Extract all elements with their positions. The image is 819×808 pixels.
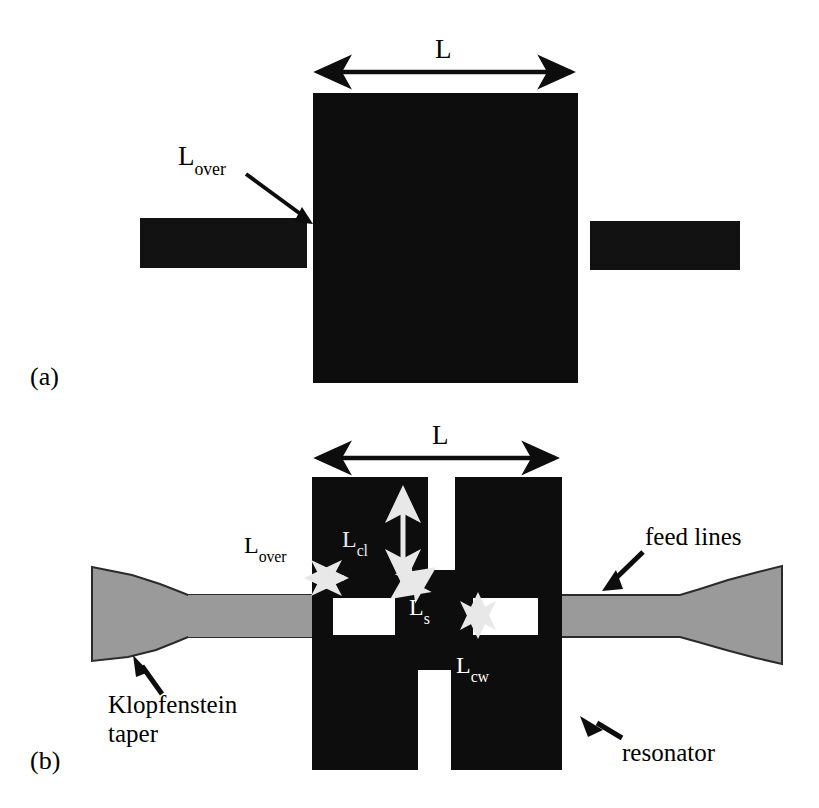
panel-b-annotation-resonator: resonator [622, 740, 715, 765]
panel-b-klopfenstein-taper-right [538, 566, 782, 664]
panel-b-label-L: L [432, 422, 449, 449]
panel-a-feed-line-left [140, 218, 307, 268]
panel-b-pointer-feed-lines [602, 552, 643, 591]
panel-b-graphics [92, 458, 782, 770]
panel-b-pointer-resonator [580, 716, 622, 738]
panel-b-coupling-gap-left [333, 598, 395, 635]
panel-a-tag: (a) [30, 364, 59, 390]
panel-b-resonator-center-stub-upper [428, 570, 455, 597]
panel-a-resonator-patch [313, 93, 578, 383]
panel-b-annotation-klopfenstein-line1: Klopfenstein [108, 692, 237, 717]
panel-a-label-Lover-subscript: over [195, 159, 226, 179]
panel-b-annotation-feed-lines: feed lines [645, 524, 741, 549]
panel-b-label-Lover: Lover [244, 533, 286, 562]
panel-b-tag: (b) [30, 748, 60, 774]
panel-b-annotation-klopfenstein-line2: taper [108, 721, 158, 746]
panel-b-coupling-gap-right [473, 598, 538, 635]
panel-b-label-Lcl: Lcl [342, 527, 368, 556]
panel-a-label-Lover: Lover [178, 143, 226, 175]
panel-b-feed-line-left-straight [188, 595, 333, 637]
panel-b-pointer-klopfenstein [133, 655, 162, 694]
diagram-canvas [0, 0, 819, 808]
panel-b-resonator-upper-right [455, 477, 562, 597]
panel-a-feed-line-right [590, 221, 740, 270]
panel-b-label-Lcl-subscript: cl [357, 542, 368, 559]
panel-b-upper-slot [428, 477, 455, 570]
panel-b-label-Lcw-subscript: cw [471, 668, 489, 685]
panel-b-label-Lcw: Lcw [456, 653, 489, 682]
panel-b-label-Ls: Ls [409, 595, 430, 624]
panel-b-resonator-lower-left [312, 637, 418, 770]
panel-a-graphics [140, 72, 740, 383]
panel-a-pointer-lover [246, 174, 313, 224]
panel-b-label-Ls-subscript: s [424, 610, 430, 627]
panel-b-resonator-center-stub-lower [418, 637, 452, 670]
panel-a-label-L: L [435, 36, 452, 63]
panel-b-label-Lover-subscript: over [259, 548, 287, 565]
figure-root: L Lover (a) L Lover Lcl Ls Lcw feed line… [0, 0, 819, 808]
panel-b-lower-slot [418, 670, 451, 770]
